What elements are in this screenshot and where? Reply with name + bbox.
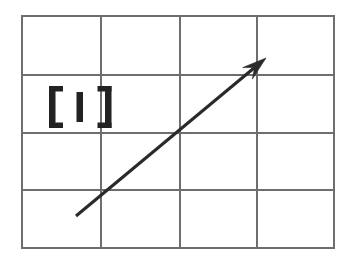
right-bracket-bottom-serif (98, 123, 112, 129)
right-bracket-top-serif (98, 86, 112, 92)
figure-canvas: Grid with diagonal arrow and bracketed b… (0, 0, 353, 266)
left-bracket-top-serif (49, 86, 63, 92)
left-bracket-stem (49, 86, 56, 128)
center-bar (77, 92, 84, 122)
diagram-svg: Grid with diagonal arrow and bracketed b… (0, 0, 353, 266)
left-bracket-bottom-serif (49, 123, 63, 129)
right-bracket-stem (105, 86, 112, 128)
